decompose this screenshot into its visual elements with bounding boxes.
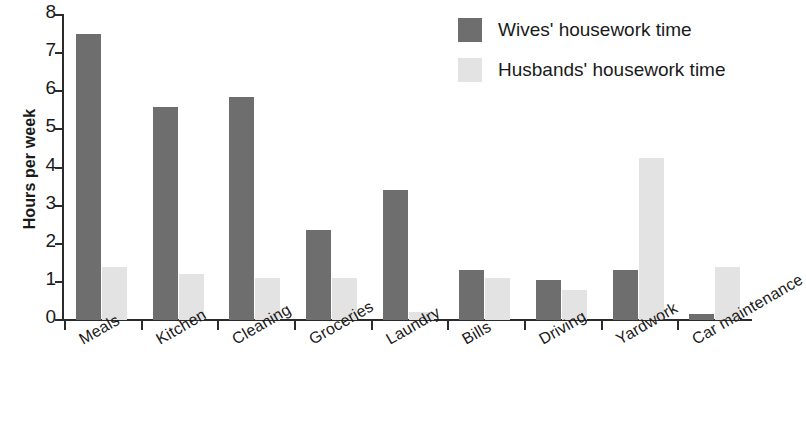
- bar-group-laundry: [383, 15, 434, 320]
- bar: [76, 34, 101, 320]
- x-tick-meals: [64, 321, 66, 330]
- legend-swatch-icon: [458, 58, 482, 82]
- bar: [613, 270, 638, 320]
- x-tick-laundry: [371, 321, 373, 330]
- x-tick-car-maintenance: [677, 321, 679, 330]
- bar-group-groceries: [306, 15, 357, 320]
- legend-label: Wives' housework time: [498, 19, 692, 41]
- y-tick-mark: [55, 281, 63, 283]
- x-axis-label-bills: Bills: [459, 318, 494, 349]
- x-tick-driving: [524, 321, 526, 330]
- legend-label: Husbands' housework time: [498, 59, 726, 81]
- y-tick-mark: [55, 205, 63, 207]
- bar: [383, 190, 408, 320]
- y-tick-label: 1: [45, 269, 56, 289]
- x-tick-groceries: [294, 321, 296, 330]
- y-tick-label: 4: [45, 155, 56, 175]
- bar: [536, 280, 561, 320]
- legend: Wives' housework timeHusbands' housework…: [458, 10, 758, 90]
- bar: [306, 230, 331, 320]
- x-tick-yardwork: [601, 321, 603, 330]
- y-tick-label: 8: [45, 2, 56, 22]
- bar-group-meals: [76, 15, 127, 320]
- x-tick-bills: [447, 321, 449, 330]
- x-tick-cleaning: [217, 321, 219, 330]
- bar: [485, 278, 510, 320]
- x-tick-kitchen: [141, 321, 143, 330]
- y-tick-mark: [55, 128, 63, 130]
- y-tick-mark: [55, 90, 63, 92]
- bar-group-cleaning: [229, 15, 280, 320]
- bar: [459, 270, 484, 320]
- y-tick-label: 2: [45, 231, 56, 251]
- y-tick-mark: [55, 319, 63, 321]
- y-tick-mark: [55, 52, 63, 54]
- legend-item-husbands: Husbands' housework time: [458, 50, 758, 90]
- legend-item-wives: Wives' housework time: [458, 10, 758, 50]
- y-tick-label: 3: [45, 193, 56, 213]
- y-tick-label: 5: [45, 116, 56, 136]
- y-tick-label: 0: [45, 307, 56, 327]
- y-tick-mark: [55, 14, 63, 16]
- legend-swatch-icon: [458, 18, 482, 42]
- bar-group-kitchen: [153, 15, 204, 320]
- y-tick-mark: [55, 167, 63, 169]
- y-tick-label: 6: [45, 78, 56, 98]
- y-axis-title: Hours per week: [21, 69, 39, 269]
- bar: [153, 107, 178, 321]
- y-tick-mark: [55, 243, 63, 245]
- bar: [229, 97, 254, 320]
- y-tick-label: 7: [45, 40, 56, 60]
- bar: [639, 158, 664, 320]
